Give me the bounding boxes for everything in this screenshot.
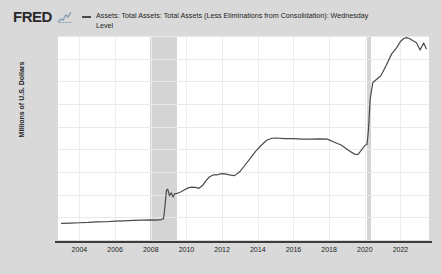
x-axis-tick-label: 2022	[380, 246, 420, 253]
x-axis-tick-label: 2014	[238, 246, 278, 253]
y-axis: Millions of U.S. Dollars 9,000,0008,000,…	[0, 0, 441, 274]
y-axis-title: Millions of U.S. Dollars	[18, 35, 25, 165]
x-axis-tick-label: 2012	[202, 246, 242, 253]
x-axis-tick-label: 2016	[273, 246, 313, 253]
fred-chart-screenshot: FRED Assets: Total Assets: Total Assets …	[0, 0, 441, 274]
x-axis-line	[55, 241, 432, 243]
x-axis-tick-label: 2020	[345, 246, 385, 253]
x-axis-tick-label: 2006	[95, 246, 135, 253]
x-axis-tick-label: 2018	[309, 246, 349, 253]
x-axis-tick-label: 2004	[59, 246, 99, 253]
x-axis-tick-label: 2008	[131, 246, 171, 253]
x-axis-tick-label: 2010	[166, 246, 206, 253]
